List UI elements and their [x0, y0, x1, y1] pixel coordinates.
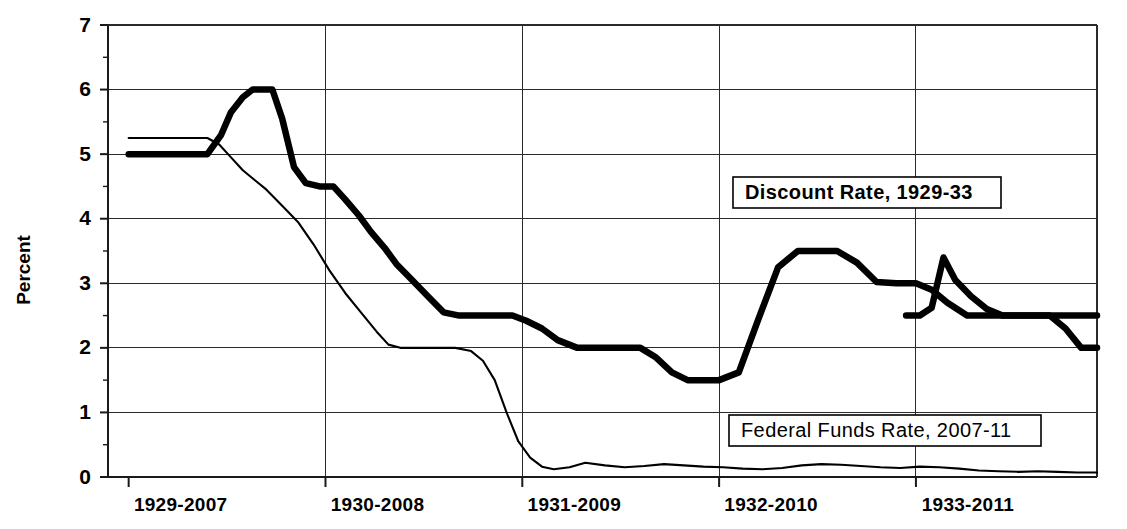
y-tick-label-6: 6	[79, 77, 91, 100]
y-tick-label-7: 7	[79, 13, 91, 36]
y-tick-label-2: 2	[79, 335, 91, 358]
x-axis-ticks	[129, 477, 916, 487]
x-tick-label-2: 1931-2009	[528, 494, 622, 515]
legend-label-1: Federal Funds Rate, 2007-11	[741, 419, 1012, 441]
x-tick-label-0: 1929-2007	[134, 494, 228, 515]
series-path-0	[129, 90, 1097, 381]
y-tick-label-5: 5	[79, 142, 91, 165]
y-tick-label-0: 0	[79, 465, 91, 488]
y-axis-tick-labels: 01234567	[79, 13, 91, 488]
x-axis-tick-labels: 1929-20071930-20081931-20091932-20101933…	[134, 494, 1014, 515]
y-tick-label-3: 3	[79, 271, 91, 294]
legend-label-0: Discount Rate, 1929-33	[745, 181, 973, 203]
y-tick-label-4: 4	[79, 206, 91, 229]
x-tick-label-3: 1932-2010	[724, 494, 818, 515]
chart-svg: 01234567 1929-20071930-20081931-20091932…	[0, 0, 1127, 529]
x-tick-label-1: 1930-2008	[331, 494, 425, 515]
y-axis-ticks	[100, 25, 108, 477]
y-tick-label-1: 1	[79, 400, 91, 423]
series-path-1	[906, 257, 1097, 347]
x-tick-label-4: 1933-2011	[922, 494, 1015, 515]
y-axis-title: Percent	[13, 234, 34, 304]
chart-container: 01234567 1929-20071930-20081931-20091932…	[0, 0, 1127, 529]
